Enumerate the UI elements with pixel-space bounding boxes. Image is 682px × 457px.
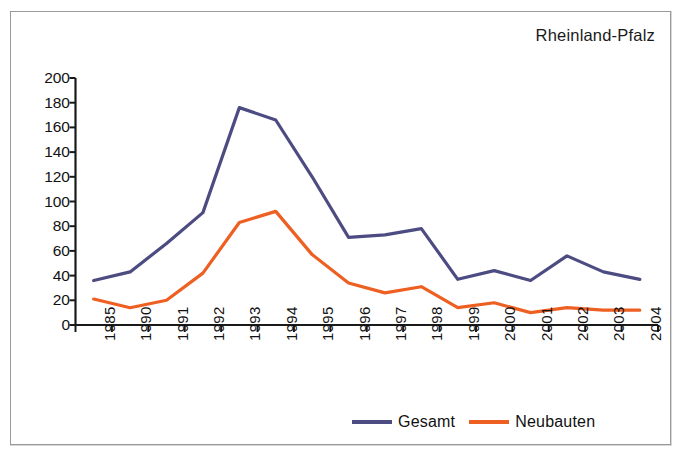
x-axis-tick-label: 1996 xyxy=(356,306,373,341)
legend-label: Neubauten xyxy=(515,413,595,431)
x-axis-tick-label: 1990 xyxy=(137,306,154,341)
x-axis-tick-label: 2004 xyxy=(647,306,664,341)
chart-legend: GesamtNeubauten xyxy=(352,408,642,436)
x-axis-tick-label: 1985 xyxy=(101,306,118,341)
x-axis-tick-label: 2001 xyxy=(538,306,555,341)
x-axis-tick-labels: 1985199019911992199319941995199619971998… xyxy=(0,0,682,457)
legend-entry-neubauten[interactable]: Neubauten xyxy=(469,413,595,431)
chart-figure: Rheinland-Pfalz 020406080100120140160180… xyxy=(0,0,682,457)
x-axis-tick-label: 1992 xyxy=(210,306,227,341)
x-axis-tick-label: 1995 xyxy=(319,306,336,341)
x-axis-tick-label: 1991 xyxy=(174,306,191,341)
legend-label: Gesamt xyxy=(398,413,455,431)
x-axis-tick-label: 1997 xyxy=(392,306,409,341)
legend-swatch-gesamt xyxy=(352,420,392,424)
legend-swatch-neubauten xyxy=(469,420,509,424)
legend-entry-gesamt[interactable]: Gesamt xyxy=(352,413,455,431)
x-axis-tick-label: 1998 xyxy=(428,306,445,341)
x-axis-tick-label: 2002 xyxy=(574,306,591,341)
x-axis-tick-label: 1999 xyxy=(465,306,482,341)
x-axis-tick-label: 2003 xyxy=(610,306,627,341)
x-axis-tick-label: 1993 xyxy=(246,306,263,341)
x-axis-tick-label: 2000 xyxy=(501,306,518,341)
x-axis-tick-label: 1994 xyxy=(283,306,300,341)
